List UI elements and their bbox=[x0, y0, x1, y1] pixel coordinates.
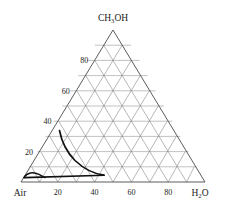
svg-text:H2O: H2O bbox=[191, 188, 208, 199]
bottom-axis-tick-labels: 20 40 60 80 bbox=[54, 188, 172, 197]
left-tick-60: 60 bbox=[62, 87, 70, 96]
svg-text:CH3OH: CH3OH bbox=[98, 13, 128, 24]
left-tick-20: 20 bbox=[25, 148, 33, 157]
bottom-tick-60: 60 bbox=[127, 188, 135, 197]
methanol-label-main: CH bbox=[98, 13, 111, 23]
air-label: Air bbox=[14, 188, 28, 198]
left-axis-tick-labels: 20 40 60 80 bbox=[25, 56, 88, 156]
left-tick-40: 40 bbox=[43, 117, 51, 126]
ternary-plot-svg: CH3OH Air H2O 20 40 60 80 20 40 60 80 bbox=[0, 0, 225, 211]
ternary-flammability-diagram: CH3OH Air H2O 20 40 60 80 20 40 60 80 bbox=[0, 0, 225, 211]
methanol-label-tail: OH bbox=[114, 13, 128, 23]
data-curves bbox=[24, 131, 104, 178]
grid-lines-horizontal bbox=[29, 45, 197, 167]
water-label-tail: O bbox=[202, 188, 209, 198]
left-tick-80: 80 bbox=[80, 56, 88, 65]
apex-label-air: Air bbox=[14, 188, 28, 198]
bottom-tick-80: 80 bbox=[164, 188, 172, 197]
bottom-tick-40: 40 bbox=[91, 188, 99, 197]
apex-label-methanol: CH3OH bbox=[98, 13, 128, 24]
apex-label-water: H2O bbox=[191, 188, 208, 199]
bottom-tick-20: 20 bbox=[54, 188, 62, 197]
